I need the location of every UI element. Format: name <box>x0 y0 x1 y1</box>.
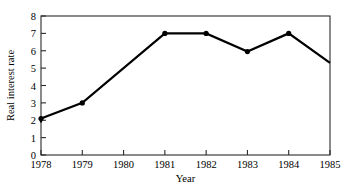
y-tick-label-2: 2 <box>31 115 36 126</box>
data-point-1979 <box>80 100 85 105</box>
x-axis-tick-labels: 1978 1979 1980 1981 1982 1983 1984 1985 <box>31 159 341 170</box>
x-tick-label-1982: 1982 <box>196 159 217 170</box>
x-tick-label-1979: 1979 <box>72 159 93 170</box>
x-tick-label-1980: 1980 <box>113 159 134 170</box>
y-axis-ticks <box>41 16 46 155</box>
x-tick-label-1978: 1978 <box>31 159 52 170</box>
y-tick-label-1: 1 <box>31 133 36 144</box>
x-axis-title: Year <box>176 173 196 184</box>
y-tick-label-6: 6 <box>31 46 36 57</box>
y-tick-label-4: 4 <box>31 81 37 92</box>
series-line-path <box>41 33 330 122</box>
x-tick-label-1981: 1981 <box>154 159 175 170</box>
chart-canvas: 0 1 2 3 4 5 6 7 8 1978 1979 1980 1981 <box>0 0 352 189</box>
plot-frame <box>41 16 330 155</box>
y-axis-title: Real interest rate <box>5 50 16 121</box>
real-interest-rate-line-chart: 0 1 2 3 4 5 6 7 8 1978 1979 1980 1981 <box>0 0 352 189</box>
data-point-1978 <box>38 116 43 121</box>
y-tick-label-8: 8 <box>31 11 36 22</box>
data-point-1983 <box>245 49 250 54</box>
x-tick-label-1983: 1983 <box>237 159 258 170</box>
data-series-real-interest-rate <box>38 31 330 123</box>
data-point-1981 <box>162 31 167 36</box>
data-point-1982 <box>204 31 209 36</box>
y-axis-tick-labels: 0 1 2 3 4 5 6 7 8 <box>31 11 37 161</box>
y-tick-label-5: 5 <box>31 63 36 74</box>
y-tick-label-3: 3 <box>31 98 36 109</box>
y-tick-label-7: 7 <box>31 28 36 39</box>
x-tick-label-1985: 1985 <box>320 159 341 170</box>
data-point-1984 <box>286 31 291 36</box>
x-axis-ticks <box>41 150 330 155</box>
x-tick-label-1984: 1984 <box>278 159 300 170</box>
